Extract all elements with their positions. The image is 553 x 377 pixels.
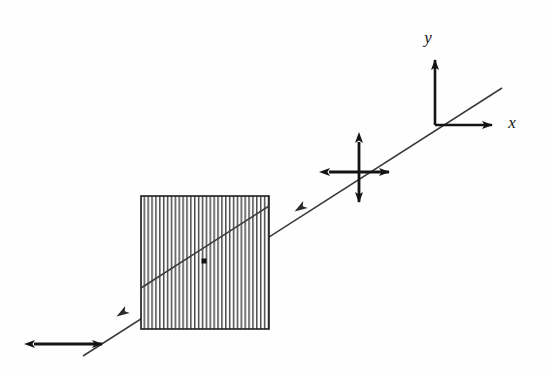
x-axis-label: x [507,113,516,132]
y-axis-label: y [422,28,432,47]
coordinate-axes [435,60,492,125]
polarizer-center-dot [202,259,207,264]
ray-direction-arrowhead-lower [114,306,129,320]
figure-canvas: x y [0,0,553,377]
optics-polarizer-figure: x y [0,0,553,377]
